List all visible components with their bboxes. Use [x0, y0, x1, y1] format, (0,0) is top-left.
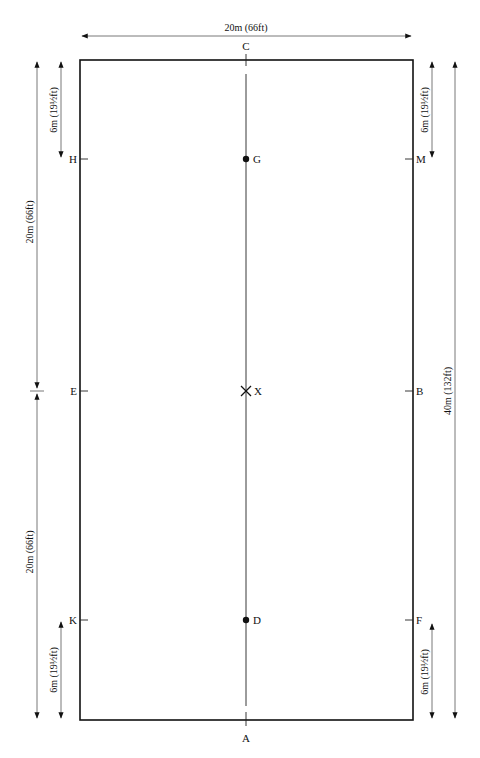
marker-h: H	[69, 153, 77, 165]
point-g-dot	[243, 156, 249, 162]
top-width-dimension: 20m (66ft)	[82, 22, 411, 36]
dressage-arena-diagram: 20m (66ft) C A H E K M B F G X D	[0, 0, 480, 758]
marker-e: E	[70, 385, 77, 397]
left-markers: H E K	[69, 153, 88, 626]
left-lower-long-label: 20m (66ft)	[24, 530, 36, 573]
right-total-label: 40m (132ft)	[442, 367, 454, 415]
right-markers: M B F	[405, 153, 426, 626]
left-bottom-short-label: 6m (19½ft)	[48, 647, 60, 693]
right-bottom-short-label: 6m (19½ft)	[419, 649, 431, 695]
marker-f: F	[416, 614, 422, 626]
top-width-label: 20m (66ft)	[224, 22, 267, 34]
marker-k: K	[69, 614, 77, 626]
point-d-dot	[243, 617, 249, 623]
left-dimensions: 6m (19½ft) 20m (66ft) 20m (66ft) 6m (19½…	[24, 62, 61, 718]
marker-g: G	[253, 153, 261, 165]
marker-m: M	[416, 153, 426, 165]
marker-c: C	[242, 40, 249, 52]
marker-x: X	[254, 385, 262, 397]
left-upper-long-label: 20m (66ft)	[24, 200, 36, 243]
marker-d: D	[253, 614, 261, 626]
left-top-short-label: 6m (19½ft)	[48, 87, 60, 133]
marker-b: B	[416, 385, 423, 397]
marker-a: A	[242, 732, 250, 744]
right-top-short-label: 6m (19½ft)	[419, 87, 431, 133]
centreline-points: G X D	[241, 153, 262, 626]
